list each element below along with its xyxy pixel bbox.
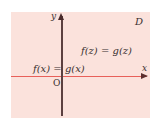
x-axis-arrow-icon	[141, 73, 148, 79]
y-axis-label: y	[51, 12, 56, 21]
region-label: D	[135, 17, 143, 27]
origin-label: O	[53, 79, 60, 88]
x-axis	[11, 76, 147, 77]
real-equation-label: f(x) = g(x)	[33, 64, 85, 74]
complex-equation-label: f(z) = g(z)	[81, 46, 132, 56]
x-axis-label: x	[142, 64, 147, 73]
y-axis-arrow-icon	[58, 13, 64, 20]
